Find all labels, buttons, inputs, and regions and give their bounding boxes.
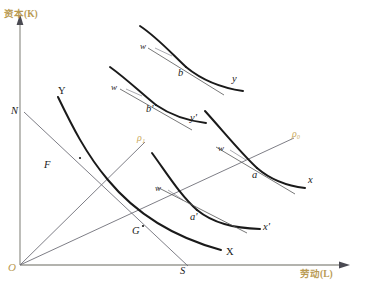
x-axis-arrow	[339, 262, 350, 269]
point-marker-F	[79, 157, 81, 159]
point-label-S: S	[180, 266, 185, 277]
isoquant-x-prime-group	[152, 153, 260, 233]
curve-label-y-prime: y'	[190, 113, 197, 124]
point-marker-b	[185, 66, 187, 68]
curve-label-y: y	[232, 74, 237, 85]
point-label-a: a	[252, 170, 257, 181]
ray-label-rho0: ρ₀	[292, 129, 300, 139]
isoquant-x-prime-curve	[152, 153, 260, 229]
segment-N-S	[24, 112, 188, 266]
tangent-line-b	[148, 48, 224, 95]
curve-label-X: X	[226, 247, 234, 258]
economics-isoquant-figure	[0, 0, 366, 289]
point-label-a-prime: a'	[190, 212, 198, 223]
point-label-b-prime: b'	[146, 104, 154, 115]
point-markers-group	[79, 66, 258, 227]
wage-label-b-prime: w	[111, 83, 117, 92]
ray-rho1	[20, 142, 145, 265]
y-axis-label: 资本(K)	[4, 10, 38, 20]
point-label-b: b	[178, 68, 183, 79]
wage-label-b: w	[140, 42, 146, 51]
tangent-line-b-prime	[120, 89, 192, 130]
point-marker-G	[142, 225, 144, 227]
point-marker-b-prime	[155, 104, 157, 106]
wage-label-a-prime: w	[155, 184, 161, 193]
curve-label-x-prime: x'	[263, 222, 270, 233]
curve-label-x: x	[308, 175, 313, 186]
ray-label-rho1: ρ₁	[137, 133, 145, 143]
tangent-line-a-prime	[157, 187, 247, 233]
point-label-N: N	[11, 106, 18, 117]
wage-label-a: w	[218, 144, 224, 153]
w-leader-lines	[126, 48, 246, 200]
axes-group	[17, 14, 350, 268]
origin-label: O	[8, 262, 16, 273]
isoquant-y-curve	[140, 26, 243, 91]
point-label-G: G	[132, 226, 140, 237]
x-axis-label: 劳动(L)	[300, 270, 333, 280]
ray-rho0	[20, 138, 294, 265]
point-label-F: F	[44, 160, 50, 171]
curve-label-Y: Y	[58, 86, 66, 97]
isoquant-y-group	[140, 26, 243, 95]
